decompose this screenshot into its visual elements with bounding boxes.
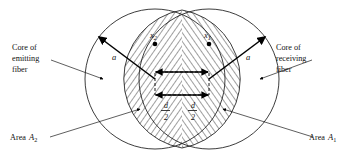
receiving-core-label-line1: Core of — [276, 43, 301, 52]
figure-canvas: a a x2 x1 d 2 d 2 Core of — [0, 0, 363, 160]
overlap-hatched-region — [100, 0, 270, 160]
receiving-core-label-line3: fiber — [276, 65, 292, 74]
area-a2-leader — [50, 109, 140, 137]
emitting-core-label-line3: fiber — [12, 65, 28, 74]
emitting-core-label-line1: Core of — [12, 43, 37, 52]
svg-text:2: 2 — [164, 113, 168, 122]
emitting-core-leader — [51, 60, 103, 79]
point-x2-dot — [153, 42, 158, 47]
radius-label-left: a — [112, 52, 116, 62]
emitting-core-label-line2: emitting — [12, 54, 39, 63]
area-a1-leader — [223, 109, 313, 137]
fiber-overlap-diagram: a a x2 x1 d 2 d 2 Core of — [0, 0, 363, 160]
area-a2-label: AreaA2 — [10, 132, 37, 143]
receiving-core-label-line2: receiving — [276, 54, 306, 63]
radius-label-right: a — [246, 52, 250, 62]
svg-text:2: 2 — [191, 113, 195, 122]
area-a1-label: AreaA1 — [309, 132, 336, 143]
point-x1-dot — [207, 42, 212, 47]
